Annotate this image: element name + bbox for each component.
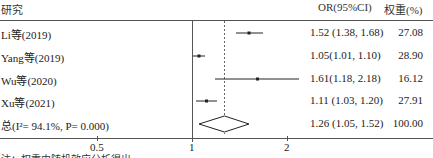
study-label: Li等(2019) [1, 26, 51, 42]
study-li-ci [236, 32, 263, 35]
weight-value: 27.08 [398, 26, 423, 38]
pooled-weight-value: 100.00 [393, 117, 423, 129]
footnote: 注：权重由随机效应分析得出 [1, 151, 131, 158]
study-label: Xu等(2021) [1, 94, 55, 110]
or-value: 1.52 (1.38, 1.68) [310, 26, 383, 38]
study-xu-ci [196, 100, 217, 103]
weight-value: 16.12 [398, 72, 423, 84]
study-wu-ci [215, 78, 299, 81]
pooled-label: 总(I²= 94.1%, P= 0.000) [1, 117, 109, 133]
study-label: Wu等(2020) [1, 72, 57, 88]
or-value: 1.05(1.01, 1.10) [310, 49, 381, 61]
study-yang-ci [193, 55, 205, 58]
weight-value: 28.90 [398, 49, 423, 61]
or-value: 1.61(1.18, 2.18) [310, 72, 381, 84]
weight-value: 27.91 [398, 94, 423, 106]
tick-label-2: 2 [284, 141, 290, 153]
pooled-or-value: 1.26 (1.05, 1.52) [310, 117, 383, 129]
or-value: 1.11 (1.03, 1.20) [310, 94, 383, 106]
tick-label-1: 1 [189, 141, 195, 153]
pooled-diamond [199, 116, 249, 132]
study-label: Yang等(2019) [1, 49, 64, 65]
